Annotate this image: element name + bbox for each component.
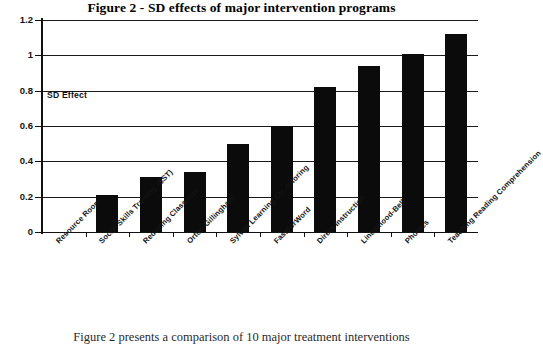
y-axis-tick bbox=[35, 91, 43, 92]
y-axis-tick bbox=[35, 126, 43, 127]
figure-caption: Figure 2 presents a comparison of 10 maj… bbox=[0, 330, 483, 345]
x-axis-tick bbox=[216, 232, 217, 237]
y-axis-tick bbox=[35, 197, 43, 198]
x-axis-tick bbox=[260, 232, 261, 237]
x-axis-tick bbox=[86, 232, 87, 237]
x-axis-tick bbox=[304, 232, 305, 237]
x-axis-tick bbox=[434, 232, 435, 237]
bar bbox=[227, 144, 249, 232]
y-axis-tick-label: 0 bbox=[3, 226, 33, 237]
x-axis-tick bbox=[173, 232, 174, 237]
y-axis-tick bbox=[35, 232, 43, 233]
x-axis-tick bbox=[129, 232, 130, 237]
x-axis-tick bbox=[347, 232, 348, 237]
bar bbox=[445, 34, 467, 232]
y-axis-tick bbox=[35, 161, 43, 162]
gridline bbox=[42, 20, 478, 21]
y-axis-labels: 00.20.40.60.811.2 bbox=[0, 0, 33, 346]
y-axis-tick-label: 0.4 bbox=[3, 155, 33, 166]
y-axis-tick-label: 1 bbox=[3, 49, 33, 60]
plot-area bbox=[42, 20, 478, 232]
bar bbox=[358, 66, 380, 232]
y-axis-tick-label: 0.8 bbox=[3, 85, 33, 96]
y-axis-tick bbox=[35, 55, 43, 56]
sd-effect-annotation: SD Effect bbox=[47, 90, 87, 100]
y-axis-tick-label: 0.6 bbox=[3, 120, 33, 131]
y-axis-tick bbox=[35, 20, 43, 21]
chart-title: Figure 2 - SD effects of major intervent… bbox=[0, 0, 483, 16]
x-axis-tick bbox=[391, 232, 392, 237]
bar bbox=[314, 87, 336, 232]
y-axis-tick-label: 0.2 bbox=[3, 191, 33, 202]
y-axis-tick-label: 1.2 bbox=[3, 14, 33, 25]
